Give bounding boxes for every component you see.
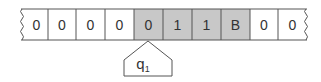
tape-cell: 0 [48, 9, 76, 40]
tape-cell: 0 [21, 9, 48, 40]
tape-cell-symbol: 0 [260, 17, 268, 33]
tape-cell-symbol: 1 [174, 17, 182, 33]
tape-cells: 0000011B00 [21, 9, 307, 40]
tape-cell: 1 [163, 9, 192, 40]
tape-cell-symbol: 0 [87, 17, 95, 33]
tape-cell: 0 [105, 9, 134, 40]
read-write-head: q1 [124, 41, 172, 76]
tape-cell-symbol: 0 [33, 17, 41, 33]
tape-cell: 0 [76, 9, 105, 40]
tape-cell-symbol: 0 [116, 17, 124, 33]
tape-cell: 0 [134, 9, 163, 40]
tape-cell-symbol: 0 [289, 17, 297, 33]
tape-cell-symbol: 0 [145, 17, 153, 33]
tape-cell: 0 [278, 9, 307, 40]
tape-cell-symbol: 0 [58, 17, 66, 33]
tape-cell: 1 [192, 9, 221, 40]
tape-cell: B [221, 9, 250, 40]
tape-cell: 0 [250, 9, 278, 40]
tape-cell-symbol: 1 [203, 17, 211, 33]
tape-cell-symbol: B [231, 17, 240, 33]
turing-tape-diagram: 0000011B00 q1 [0, 0, 321, 82]
